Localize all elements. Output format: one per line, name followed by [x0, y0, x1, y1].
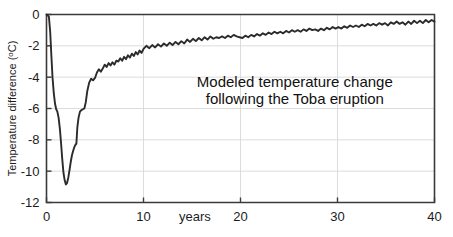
- y-tick-label: 0: [32, 7, 39, 22]
- x-tick-label: 10: [136, 209, 150, 224]
- y-tick-labels: 0-2-4-6-8-10-12: [21, 7, 40, 210]
- gridlines: [47, 15, 435, 203]
- annotation-line-1: Modeled temperature change: [197, 73, 393, 90]
- y-tick-label: -4: [28, 70, 40, 85]
- temperature-difference-line-chart: 0-2-4-6-8-10-12 010203040 Temperature di…: [0, 0, 453, 237]
- x-tick-label: 40: [427, 209, 441, 224]
- y-tick-label: -6: [28, 101, 40, 116]
- x-tick-label: 0: [43, 209, 50, 224]
- y-tick-label: -8: [28, 132, 40, 147]
- y-tick-label: -2: [28, 38, 40, 53]
- x-tick-label: 20: [233, 209, 247, 224]
- y-tick-label: -10: [21, 164, 40, 179]
- y-tick-label: -12: [21, 195, 40, 210]
- x-tick-label: 30: [330, 209, 344, 224]
- y-axis-title: Temperature difference (oC): [6, 41, 18, 177]
- x-axis-title: years: [179, 209, 211, 224]
- chart-figure: 0-2-4-6-8-10-12 010203040 Temperature di…: [0, 0, 453, 237]
- x-tick-labels: 010203040: [43, 209, 442, 224]
- annotation-line-2: following the Toba eruption: [206, 90, 384, 107]
